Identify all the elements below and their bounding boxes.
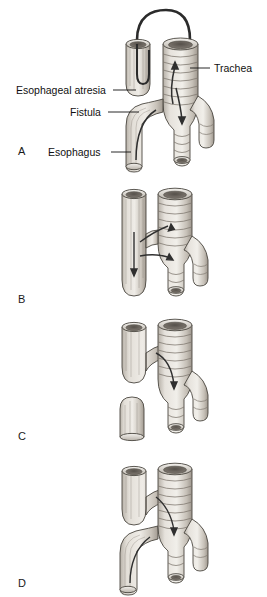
upper-esophageal-pouch-with-fistula <box>122 322 162 383</box>
left-main-bronchus <box>184 236 208 286</box>
panel-c-illustration <box>0 305 267 450</box>
panel-letter-d: D <box>18 578 26 589</box>
upper-esophageal-pouch-with-fistula <box>122 466 162 525</box>
panel-letter-c: C <box>18 431 26 442</box>
trachea <box>158 319 208 433</box>
figure-root: Esophageal atresia Fistula Esophagus Tra… <box>0 0 267 597</box>
trachea <box>158 188 208 296</box>
panel-d-illustration <box>0 443 267 597</box>
left-main-bronchus <box>184 519 208 571</box>
label-esophagus: Esophagus <box>48 146 101 158</box>
panel-letter-a: A <box>18 146 26 157</box>
distal-esophageal-segment <box>120 397 144 441</box>
label-trachea: Trachea <box>214 62 252 74</box>
distal-esophagus-with-fistula <box>120 526 158 595</box>
label-fistula: Fistula <box>70 106 101 118</box>
panel-letter-b: B <box>18 294 26 305</box>
trachea <box>158 463 208 583</box>
left-main-bronchus <box>184 371 208 421</box>
panel-b-illustration <box>0 172 267 312</box>
panel-b: B <box>0 172 267 312</box>
panel-a: Esophageal atresia Fistula Esophagus Tra… <box>0 0 267 180</box>
label-esophageal-atresia: Esophageal atresia <box>16 84 106 96</box>
h-type-fistula <box>146 230 158 248</box>
panel-c: C <box>0 305 267 450</box>
panel-d: D <box>0 443 267 597</box>
